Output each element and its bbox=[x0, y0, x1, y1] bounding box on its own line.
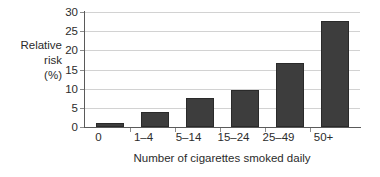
y-tick-label-5: 5 bbox=[56, 103, 78, 115]
x-tick-label-25-49: 25–49 bbox=[256, 131, 301, 144]
y-tick-label-0: 0 bbox=[56, 122, 78, 134]
bar-25-49 bbox=[276, 63, 304, 127]
x-tick-label-15-24: 15–24 bbox=[211, 131, 256, 144]
gridline-30 bbox=[84, 12, 360, 13]
y-tick-label-25: 25 bbox=[56, 26, 78, 38]
bar-1-4 bbox=[141, 112, 169, 127]
bar-chart-figure: Relative risk (%) 30 25 20 15 10 5 0 0 1… bbox=[0, 0, 380, 177]
x-axis-title: Number of cigarettes smoked daily bbox=[84, 152, 360, 164]
y-tick-label-30: 30 bbox=[56, 7, 78, 19]
plot-area bbox=[84, 12, 360, 127]
x-tick-label-0: 0 bbox=[76, 131, 121, 144]
gridline-15 bbox=[84, 70, 360, 71]
x-tick-label-5-14: 5–14 bbox=[166, 131, 211, 144]
y-axis-line bbox=[84, 11, 85, 128]
y-tick-label-20: 20 bbox=[56, 45, 78, 57]
gridline-20 bbox=[84, 50, 360, 51]
bar-50plus bbox=[321, 21, 349, 127]
gridline-10 bbox=[84, 89, 360, 90]
y-tick-label-15: 15 bbox=[56, 65, 78, 77]
y-axis-title: Relative risk (%) bbox=[0, 38, 62, 83]
x-axis-line bbox=[84, 127, 361, 128]
bar-15-24 bbox=[231, 90, 259, 127]
bar-5-14 bbox=[186, 98, 214, 127]
gridline-5 bbox=[84, 108, 360, 109]
gridline-25 bbox=[84, 31, 360, 32]
y-tick-label-10: 10 bbox=[56, 84, 78, 96]
x-tick-label-1-4: 1–4 bbox=[121, 131, 166, 144]
x-tick-label-50plus: 50+ bbox=[301, 131, 346, 144]
